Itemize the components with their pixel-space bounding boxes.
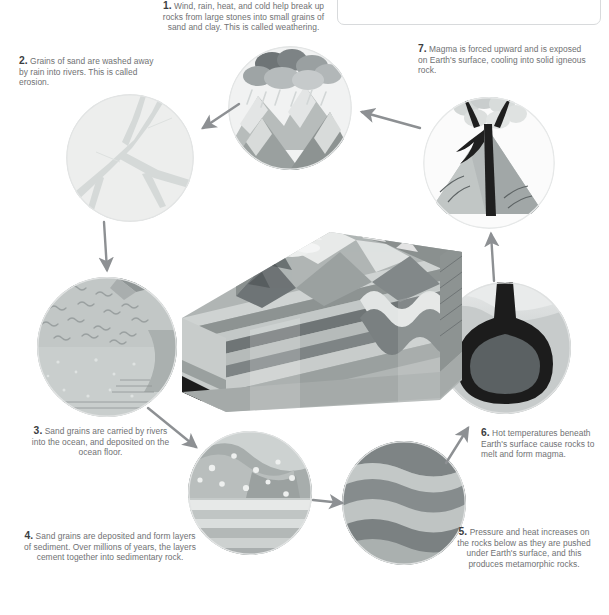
note-box[interactable] <box>337 0 601 25</box>
caption-step-3: 3. Sand grains are carried by rivers int… <box>28 426 173 458</box>
circle-step-1 <box>228 46 360 170</box>
step-2-number: 2. <box>19 55 28 66</box>
caption-step-7: 7. Magma is forced upward and is exposed… <box>418 44 592 76</box>
step-7-number: 7. <box>418 43 427 54</box>
circle-step-7 <box>423 87 555 229</box>
step-1-number: 1. <box>163 0 172 11</box>
arrow-4-to-5 <box>313 500 342 503</box>
step-1-text: Wind, rain, heat, and cold help break up… <box>163 1 324 32</box>
step-4-number: 4. <box>25 530 34 541</box>
circle-step-2 <box>66 94 196 222</box>
caption-step-4: 4. Sand grains are deposited and form la… <box>21 531 199 563</box>
step-6-text: Hot temperatures beneath Earth's surface… <box>481 428 594 459</box>
circle-step-4 <box>188 431 312 556</box>
rock-cycle-diagram: 1. Wind, rain, heat, and cold help break… <box>0 0 609 615</box>
step-5-text: Pressure and heat increases on the rocks… <box>457 527 590 569</box>
step-2-text: Grains of sand are washed away by rain i… <box>19 56 154 87</box>
caption-step-1: 1. Wind, rain, heat, and cold help break… <box>162 1 325 33</box>
step-3-text: Sand grains are carried by rivers into t… <box>32 426 169 457</box>
caption-step-6: 6. Hot temperatures beneath Earth's surf… <box>481 428 601 460</box>
step-5-number: 5. <box>459 526 468 537</box>
step-7-text: Magma is forced upward and is exposed on… <box>418 44 586 75</box>
arrow-5-to-6 <box>446 428 468 463</box>
arrow-2-to-3 <box>104 222 107 270</box>
circle-step-3 <box>37 277 177 417</box>
arrow-6-to-7 <box>491 234 494 281</box>
step-3-number: 3. <box>34 425 43 436</box>
caption-step-5: 5. Pressure and heat increases on the ro… <box>456 527 592 569</box>
arrow-7-to-1 <box>362 112 420 128</box>
step-4-text: Sand grains are deposited and form layer… <box>24 531 196 562</box>
step-6-number: 6. <box>481 427 490 438</box>
geological-block-diagram <box>175 220 470 425</box>
caption-step-2: 2. Grains of sand are washed away by rai… <box>19 56 155 88</box>
illustration-layer <box>0 0 609 615</box>
